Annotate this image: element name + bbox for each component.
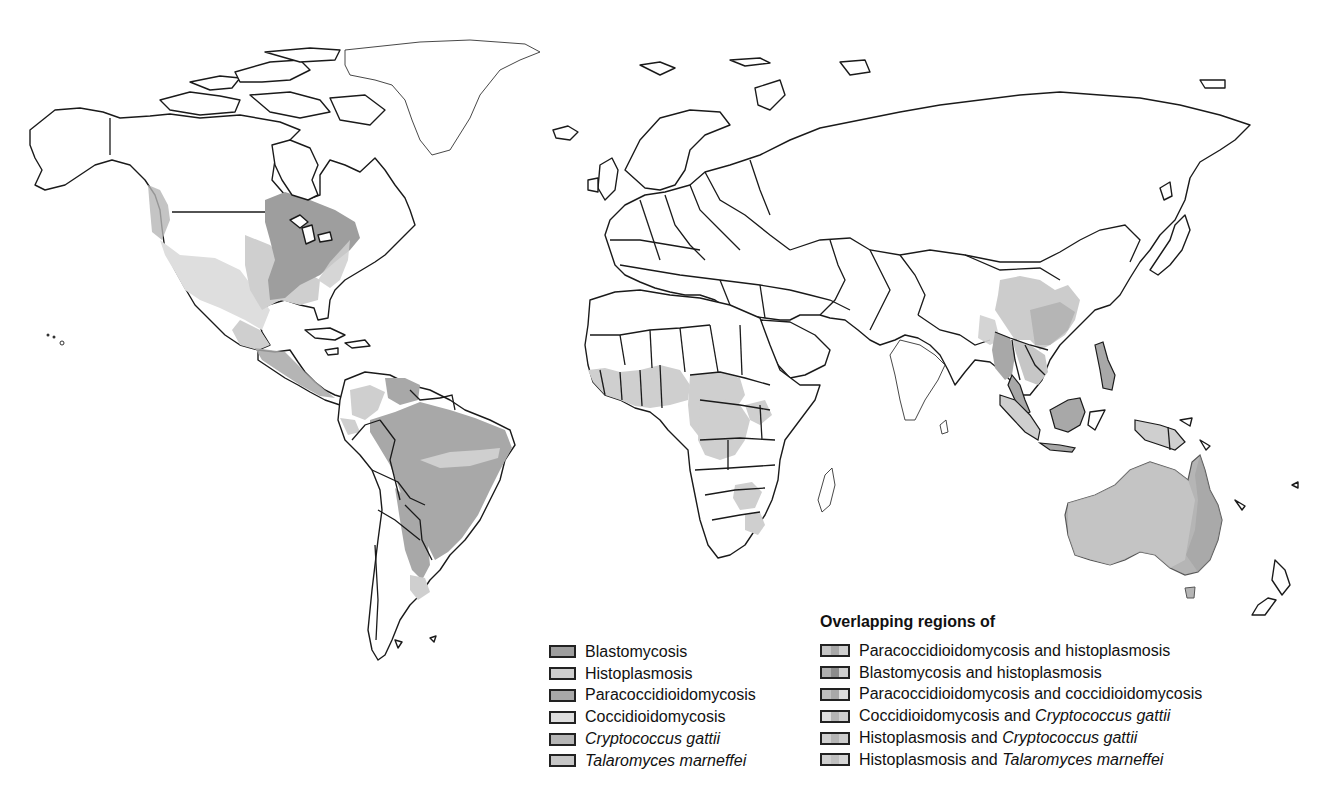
legend-item-blasto-histo: Blastomycosis and histoplasmosis	[820, 662, 1202, 684]
legend-label: Histoplasmosis	[585, 665, 693, 683]
legend-label: Paracoccidioidomycosis and histoplasmosi…	[859, 642, 1170, 660]
legend-label: Histoplasmosis and Cryptococcus gattii	[859, 729, 1137, 747]
swatch-histoplasmosis	[549, 667, 576, 680]
swatch-histo-crypto	[820, 732, 850, 745]
ireland	[588, 178, 598, 192]
legend-label: Coccidioidomycosis and Cryptococcus gatt…	[859, 707, 1170, 725]
north-america-mainland	[30, 108, 415, 350]
legend-item-histo-crypto: Histoplasmosis and Cryptococcus gattii	[820, 727, 1202, 749]
swatch-blasto-histo	[820, 666, 850, 679]
swatch-para-cocci	[820, 688, 850, 701]
legend-label: Coccidioidomycosis	[585, 708, 726, 726]
swatch-talaromyces-marneffei	[549, 754, 576, 767]
legend-label: Paracoccidioidomycosis	[585, 686, 756, 704]
greenland	[345, 40, 540, 155]
legend-label: Histoplasmosis and Talaromyces marneffei	[859, 751, 1163, 769]
swatch-cocci-crypto	[820, 710, 850, 723]
legend-item-histo-talaro: Histoplasmosis and Talaromyces marneffei	[820, 749, 1202, 771]
swatch-coccidioidomycosis	[549, 711, 576, 724]
legend-overlap-title: Overlapping regions of	[820, 613, 1202, 633]
north-america	[30, 40, 540, 405]
legend-item-blastomycosis: Blastomycosis	[549, 641, 756, 663]
legend-single: Blastomycosis Histoplasmosis Paracoccidi…	[549, 641, 756, 772]
uk	[598, 158, 618, 200]
legend-label: Blastomycosis and histoplasmosis	[859, 664, 1102, 682]
legend-item-talaromyces-marneffei: Talaromyces marneffei	[549, 750, 756, 772]
swatch-cryptococcus-gattii	[549, 733, 576, 746]
legend-item-cryptococcus-gattii: Cryptococcus gattii	[549, 728, 756, 750]
legend-label: Paracoccidioidomycosis and coccidioidomy…	[859, 685, 1202, 703]
south-america	[338, 372, 515, 660]
legend-label: Cryptococcus gattii	[585, 730, 720, 748]
legend-label: Blastomycosis	[585, 643, 687, 661]
oceania	[1000, 342, 1298, 615]
legend-item-histoplasmosis: Histoplasmosis	[549, 663, 756, 685]
swatch-histo-talaro	[820, 753, 850, 766]
swatch-paracoccidioidomycosis	[549, 689, 576, 702]
legend-item-paracoccidioidomycosis: Paracoccidioidomycosis	[549, 685, 756, 707]
legend-label: Talaromyces marneffei	[585, 752, 746, 770]
legend-item-para-histo: Paracoccidioidomycosis and histoplasmosi…	[820, 640, 1202, 662]
new-zealand	[1272, 560, 1290, 595]
legend-overlap: Overlapping regions of Paracoccidioidomy…	[820, 613, 1202, 771]
legend-item-coccidioidomycosis: Coccidioidomycosis	[549, 706, 756, 728]
legend-item-para-cocci: Paracoccidioidomycosis and coccidioidomy…	[820, 684, 1202, 706]
swatch-blastomycosis	[549, 645, 576, 658]
iceland	[553, 126, 578, 140]
madagascar	[818, 468, 835, 512]
swatch-para-histo	[820, 644, 850, 657]
legend-item-cocci-crypto: Coccidioidomycosis and Cryptococcus gatt…	[820, 705, 1202, 727]
